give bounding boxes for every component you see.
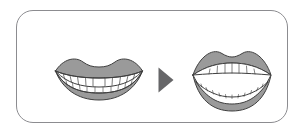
open-mouth-icon [191,44,273,114]
diagram-canvas [0,0,304,134]
diagram-frame [16,10,288,123]
closed-mouth-smile-icon [53,52,145,104]
play-triangle-icon [154,65,178,95]
